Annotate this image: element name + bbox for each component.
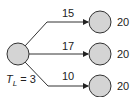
target-value-3: 20: [117, 80, 129, 92]
edge-top: [25, 22, 88, 46]
source-label: TL = 3: [6, 73, 36, 88]
tree-diagram: 15 17 10 20 20 20 TL = 3: [0, 0, 139, 97]
target-value-1: 20: [117, 16, 129, 28]
edge-weight-3: 10: [62, 70, 74, 82]
edge-weight-1: 15: [62, 7, 74, 19]
source-label-eq: = 3: [17, 73, 36, 85]
target-node-2: [89, 43, 111, 65]
source-node: [7, 43, 29, 65]
target-node-1: [89, 11, 111, 33]
target-node-3: [89, 75, 111, 97]
edge-weight-2: 17: [62, 40, 74, 52]
target-value-2: 20: [117, 48, 129, 60]
